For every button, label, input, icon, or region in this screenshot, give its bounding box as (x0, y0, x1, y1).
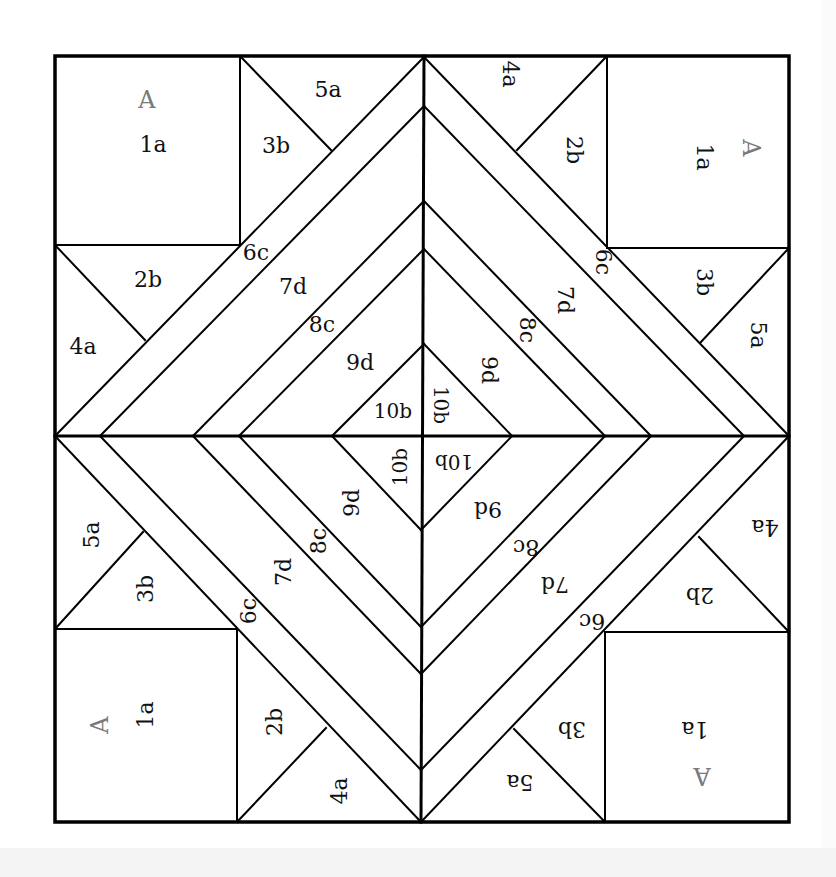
piece-label-2b: 2b (134, 267, 162, 292)
piece-label-5a: 5a (314, 77, 341, 102)
piece-label-4a: 4a (498, 60, 523, 87)
piece-label-4a: 4a (751, 515, 778, 540)
pattern-lines (55, 56, 789, 822)
piece-label-3b: 3b (133, 575, 158, 603)
piece-label-6c: 6c (243, 240, 269, 265)
piece-label-10b: 10b (374, 399, 412, 423)
piece-label-6c: 6c (579, 609, 605, 634)
piece-label-10b: 10b (429, 386, 453, 424)
piece-label-10b: 10b (435, 450, 473, 474)
quadrant-top-left (55, 56, 424, 436)
divider-2b-4a (237, 728, 326, 822)
piece-label-1a: 1a (681, 717, 708, 742)
piece-label-6c: 6c (236, 598, 261, 624)
labels-bottom-left: A 1a 2b 3b 4a 5a 6c 7d 8c 9d 10b (79, 448, 412, 805)
piece-label-7d: 7d (541, 572, 569, 597)
piece-label-9d: 9d (474, 497, 502, 522)
piece-label-7d: 7d (279, 274, 307, 299)
section-label: A (86, 716, 114, 735)
piece-label-8c: 8c (515, 317, 540, 343)
piece-label-3b: 3b (262, 133, 290, 158)
piece-label-5a: 5a (746, 321, 771, 348)
divider-4a-2b (517, 56, 607, 150)
piece-label-3b: 3b (692, 268, 717, 296)
piece-label-9d: 9d (339, 489, 364, 517)
divider-2b-4a (55, 245, 145, 340)
piece-label-9d: 9d (477, 356, 502, 384)
piece-label-5a: 5a (506, 770, 533, 795)
piece-label-1a: 1a (692, 143, 717, 170)
piece-label-7d: 7d (271, 558, 296, 586)
piece-label-2b: 2b (562, 136, 587, 164)
piece-label-9d: 9d (346, 350, 374, 375)
section-label: A (737, 138, 765, 157)
piece-label-10b: 10b (388, 448, 412, 486)
piece-label-5a: 5a (79, 521, 104, 548)
piece-label-2b: 2b (262, 708, 287, 736)
piece-label-8c: 8c (306, 528, 331, 554)
piece-label-3b: 3b (558, 717, 586, 742)
piece-label-4a: 4a (327, 777, 352, 804)
piece-label-8c: 8c (513, 535, 539, 560)
section-label: A (137, 86, 156, 114)
section-label: A (693, 762, 712, 790)
piece-label-6c: 6c (591, 249, 616, 275)
quadrant-bottom-left (55, 436, 421, 822)
piece-label-2b: 2b (686, 583, 714, 608)
quilt-block-diagram: A 1a 2b 3b 4a 5a 6c 7d 8c 9d 10b A 1a 2b… (0, 0, 836, 877)
piece-label-8c: 8c (309, 312, 335, 337)
piece-label-1a: 1a (133, 701, 158, 728)
piece-label-4a: 4a (69, 334, 96, 359)
vertical-seam (421, 56, 424, 822)
piece-label-7d: 7d (553, 286, 578, 314)
piece-label-1a: 1a (139, 132, 166, 157)
